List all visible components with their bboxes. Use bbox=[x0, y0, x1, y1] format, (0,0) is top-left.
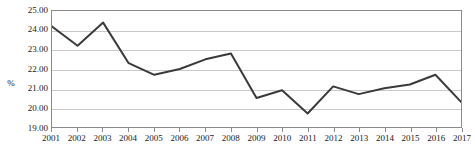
y-axis-tick-label: 21.00 bbox=[14, 84, 48, 93]
x-axis-tick bbox=[385, 128, 386, 132]
y-axis-tick-label: 19.00 bbox=[14, 124, 48, 133]
x-axis-tick-labels: 2001200220032004200520062007200820092010… bbox=[51, 133, 462, 149]
x-axis-tick bbox=[308, 128, 309, 132]
y-axis-tick-label: 20.00 bbox=[14, 104, 48, 113]
line-chart: % 25.0024.0023.0022.0021.0020.0019.00 20… bbox=[0, 0, 475, 153]
y-axis-tick-label: 25.00 bbox=[14, 6, 48, 15]
x-axis-tick bbox=[77, 128, 78, 132]
series-line bbox=[52, 11, 461, 127]
x-axis-tick bbox=[282, 128, 283, 132]
x-axis-tick bbox=[51, 128, 52, 132]
x-axis-ticks bbox=[51, 128, 462, 132]
series-polyline bbox=[52, 23, 461, 114]
x-axis-tick bbox=[102, 128, 103, 132]
x-axis-tick bbox=[205, 128, 206, 132]
y-axis-tick-label: 23.00 bbox=[14, 45, 48, 54]
y-axis-tick-label: 24.00 bbox=[14, 25, 48, 34]
x-axis-tick bbox=[462, 128, 463, 132]
y-axis-tick-labels: 25.0024.0023.0022.0021.0020.0019.00 bbox=[14, 10, 48, 128]
plot-area bbox=[51, 10, 462, 128]
x-axis-tick-label: 2017 bbox=[442, 133, 475, 144]
x-axis-tick bbox=[257, 128, 258, 132]
x-axis-tick bbox=[359, 128, 360, 132]
x-axis-tick bbox=[128, 128, 129, 132]
y-axis-tick-label: 22.00 bbox=[14, 65, 48, 74]
x-axis-tick bbox=[436, 128, 437, 132]
x-axis-tick bbox=[334, 128, 335, 132]
x-axis-tick bbox=[179, 128, 180, 132]
x-axis-tick bbox=[154, 128, 155, 132]
x-axis-tick bbox=[231, 128, 232, 132]
x-axis-tick bbox=[411, 128, 412, 132]
